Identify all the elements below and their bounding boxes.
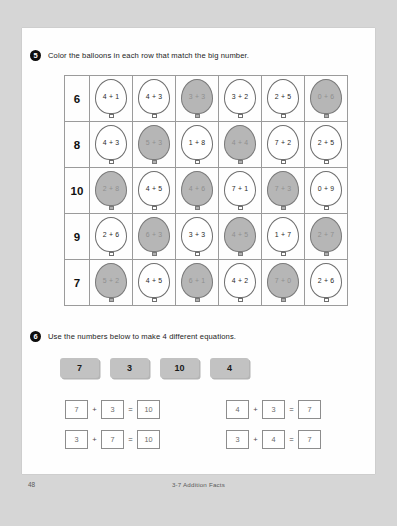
balloon-shaded[interactable]: 6 + 3 (138, 217, 170, 257)
balloon-shaded[interactable]: 4 + 5 (224, 217, 256, 257)
balloon-equation-label: 7 + 2 (275, 139, 292, 146)
equation-result-box[interactable]: 7 (298, 400, 321, 419)
equation: 7+3=10 (65, 400, 204, 419)
balloon-shaded[interactable]: 7 + 3 (267, 171, 299, 211)
equation-result-box[interactable]: 7 (298, 430, 321, 449)
balloon-equation-label: 4 + 5 (146, 185, 163, 192)
number-tile[interactable]: 3 (110, 358, 149, 378)
balloon-cell[interactable]: 3 + 2 (219, 76, 262, 122)
number-tile[interactable]: 10 (160, 358, 199, 378)
balloon-equation-label: 4 + 5 (232, 231, 249, 238)
balloon-equation-label: 3 + 3 (189, 231, 206, 238)
balloon-cell[interactable]: 4 + 3 (90, 122, 133, 168)
equation-operand-box[interactable]: 7 (65, 400, 88, 419)
balloon-cell[interactable]: 5 + 2 (90, 260, 133, 306)
balloon-knot-icon (324, 206, 329, 210)
page-footer: 48 3-7 Addition Facts (22, 481, 375, 493)
balloon-unshaded[interactable]: 4 + 5 (138, 263, 170, 303)
balloon-unshaded[interactable]: 2 + 6 (310, 263, 342, 303)
balloon-cell[interactable]: 2 + 8 (90, 168, 133, 214)
balloon-cell[interactable]: 5 + 3 (133, 122, 176, 168)
balloon-cell[interactable]: 7 + 0 (262, 260, 305, 306)
equation-operand-box[interactable]: 3 (65, 430, 88, 449)
exercise-5-instruction: Color the balloons in each row that matc… (48, 51, 249, 60)
balloon-knot-icon (152, 298, 157, 302)
balloon-shaded[interactable]: 3 + 3 (181, 79, 213, 119)
balloon-cell[interactable]: 6 + 3 (133, 214, 176, 260)
balloon-unshaded[interactable]: 2 + 6 (95, 217, 127, 257)
balloon-cell[interactable]: 4 + 4 (219, 122, 262, 168)
balloon-cell[interactable]: 4 + 5 (133, 260, 176, 306)
balloon-shaded[interactable]: 2 + 7 (310, 217, 342, 257)
balloon-shaded[interactable]: 6 + 1 (181, 263, 213, 303)
balloon-cell[interactable]: 4 + 1 (90, 76, 133, 122)
equation-operand-box[interactable]: 3 (226, 430, 249, 449)
balloon-unshaded[interactable]: 4 + 1 (95, 79, 127, 119)
balloon-unshaded[interactable]: 2 + 5 (267, 79, 299, 119)
worksheet-page: 5 Color the balloons in each row that ma… (22, 28, 375, 474)
equation-result-box[interactable]: 10 (137, 430, 160, 449)
balloon-cell[interactable]: 1 + 7 (262, 214, 305, 260)
balloon-unshaded[interactable]: 7 + 1 (224, 171, 256, 211)
balloon-cell[interactable]: 6 + 1 (176, 260, 219, 306)
balloon-shaded[interactable]: 2 + 8 (95, 171, 127, 211)
lesson-title: 3-7 Addition Facts (22, 481, 375, 488)
balloon-knot-icon (238, 298, 243, 302)
balloon-knot-icon (238, 252, 243, 256)
balloon-knot-icon (195, 252, 200, 256)
number-tile[interactable]: 7 (60, 358, 99, 378)
balloon-unshaded[interactable]: 4 + 5 (138, 171, 170, 211)
balloon-cell[interactable]: 7 + 2 (262, 122, 305, 168)
balloon-cell[interactable]: 3 + 3 (176, 76, 219, 122)
balloon-shaded[interactable]: 0 + 6 (310, 79, 342, 119)
equation-operand-box[interactable]: 4 (262, 430, 285, 449)
balloon-equation-label: 3 + 3 (189, 93, 206, 100)
equation-equals-sign: = (285, 435, 298, 444)
equation-operand-box[interactable]: 7 (101, 430, 124, 449)
balloon-cell[interactable]: 2 + 6 (305, 260, 348, 306)
equation: 3+7=10 (65, 430, 204, 449)
balloon-equation-label: 2 + 5 (318, 139, 335, 146)
balloon-unshaded[interactable]: 7 + 2 (267, 125, 299, 165)
balloon-cell[interactable]: 0 + 9 (305, 168, 348, 214)
balloon-unshaded[interactable]: 0 + 9 (310, 171, 342, 211)
balloon-unshaded[interactable]: 1 + 8 (181, 125, 213, 165)
balloon-equation-label: 4 + 3 (146, 93, 163, 100)
balloon-shaded[interactable]: 7 + 0 (267, 263, 299, 303)
balloon-shaded[interactable]: 5 + 3 (138, 125, 170, 165)
balloon-cell[interactable]: 2 + 7 (305, 214, 348, 260)
equation-operand-box[interactable]: 4 (226, 400, 249, 419)
equation-result-box[interactable]: 10 (137, 400, 160, 419)
balloon-cell[interactable]: 4 + 2 (219, 260, 262, 306)
balloon-knot-icon (109, 298, 114, 302)
balloon-unshaded[interactable]: 4 + 3 (95, 125, 127, 165)
balloon-knot-icon (324, 252, 329, 256)
balloon-cell[interactable]: 4 + 5 (219, 214, 262, 260)
balloon-cell[interactable]: 0 + 6 (305, 76, 348, 122)
balloon-shaded[interactable]: 4 + 6 (181, 171, 213, 211)
balloon-cell[interactable]: 4 + 5 (133, 168, 176, 214)
balloon-shaded[interactable]: 5 + 2 (95, 263, 127, 303)
balloon-cell[interactable]: 4 + 3 (133, 76, 176, 122)
balloon-unshaded[interactable]: 3 + 3 (181, 217, 213, 257)
equation-operand-box[interactable]: 3 (101, 400, 124, 419)
balloon-cell[interactable]: 7 + 3 (262, 168, 305, 214)
balloon-unshaded[interactable]: 3 + 2 (224, 79, 256, 119)
balloon-cell[interactable]: 7 + 1 (219, 168, 262, 214)
balloon-cell[interactable]: 2 + 5 (262, 76, 305, 122)
balloon-unshaded[interactable]: 1 + 7 (267, 217, 299, 257)
balloon-unshaded[interactable]: 4 + 3 (138, 79, 170, 119)
balloon-cell[interactable]: 1 + 8 (176, 122, 219, 168)
balloon-knot-icon (238, 206, 243, 210)
equation-plus-sign: + (88, 405, 101, 414)
balloon-unshaded[interactable]: 4 + 2 (224, 263, 256, 303)
balloon-cell[interactable]: 2 + 5 (305, 122, 348, 168)
balloon-cell[interactable]: 4 + 6 (176, 168, 219, 214)
balloon-equation-label: 2 + 5 (275, 93, 292, 100)
balloon-shaded[interactable]: 4 + 4 (224, 125, 256, 165)
equation-operand-box[interactable]: 3 (262, 400, 285, 419)
balloon-cell[interactable]: 2 + 6 (90, 214, 133, 260)
balloon-unshaded[interactable]: 2 + 5 (310, 125, 342, 165)
balloon-cell[interactable]: 3 + 3 (176, 214, 219, 260)
number-tile[interactable]: 4 (210, 358, 249, 378)
